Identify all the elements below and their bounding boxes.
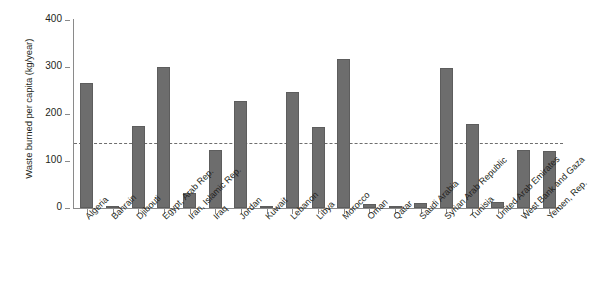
y-axis-tick-label: 400: [45, 14, 62, 24]
y-axis-tick: 400: [0, 20, 74, 21]
y-axis-tick-label: 0: [56, 202, 62, 212]
y-axis-tick: 200: [0, 114, 74, 115]
y-axis-tick: 0: [0, 208, 74, 209]
bar[interactable]: [337, 59, 350, 208]
y-axis-tick: 100: [0, 161, 74, 162]
y-axis-tick-mark: [65, 114, 70, 115]
y-axis-tick-mark: [65, 161, 70, 162]
bar[interactable]: [80, 83, 93, 208]
y-axis-tick-label: 100: [45, 155, 62, 165]
bar[interactable]: [286, 92, 299, 208]
bar[interactable]: [234, 101, 247, 208]
y-axis-tick-mark: [65, 208, 70, 209]
y-axis-tick-mark: [65, 67, 70, 68]
y-axis-tick-label: 200: [45, 108, 62, 118]
y-axis-tick: 300: [0, 67, 74, 68]
y-axis-tick-mark: [65, 20, 70, 21]
bar[interactable]: [157, 67, 170, 208]
y-axis-title: Waste burned per capita (kg/year): [24, 14, 34, 204]
y-axis-tick-label: 300: [45, 61, 62, 71]
